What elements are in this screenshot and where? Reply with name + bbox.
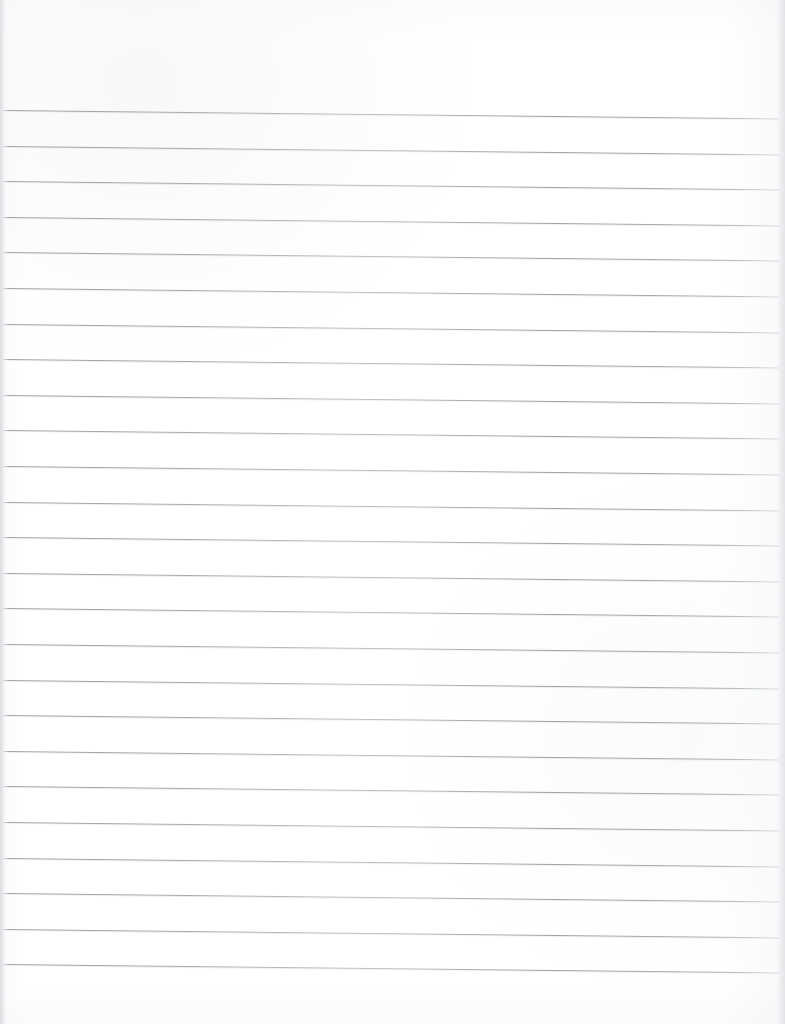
rule-line	[3, 715, 779, 724]
rule-line	[3, 181, 779, 190]
rule-line	[3, 252, 779, 261]
rule-line	[3, 502, 779, 511]
rule-line	[3, 324, 779, 333]
rule-line	[3, 608, 779, 617]
ruled-lines-layer	[0, 0, 785, 1024]
scanned-page	[0, 0, 785, 1024]
rule-line	[3, 644, 779, 653]
rule-line	[3, 430, 779, 439]
rule-line	[3, 537, 779, 546]
rule-line	[3, 751, 779, 760]
rule-line	[3, 395, 779, 404]
rule-line	[3, 217, 779, 226]
rule-line	[3, 929, 779, 938]
rule-line	[3, 359, 779, 368]
rule-line	[3, 466, 779, 475]
rule-line	[3, 146, 779, 155]
rule-line	[3, 573, 779, 582]
rule-line	[3, 893, 779, 902]
rule-line	[3, 822, 779, 831]
rule-line	[3, 110, 779, 119]
rule-line	[3, 858, 779, 867]
rule-line	[3, 680, 779, 689]
rule-line	[3, 288, 779, 297]
rule-line	[3, 786, 779, 795]
rule-line	[3, 964, 779, 973]
